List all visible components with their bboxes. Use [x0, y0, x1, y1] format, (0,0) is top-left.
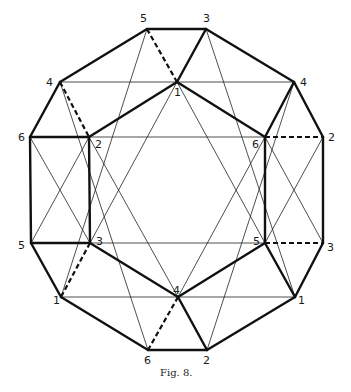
vertex-label-b6: 6 [144, 354, 151, 367]
thin-line-top5-l1 [61, 29, 147, 297]
thick-edge-b6-l1 [61, 297, 148, 350]
vertex-label-r4: 4 [300, 76, 307, 89]
vertex-label-r3: 3 [327, 241, 334, 254]
thick-edge-l1-l5 [31, 243, 61, 297]
dashed-edge-top5-c1 [147, 29, 177, 82]
vertex-label-l4: 4 [46, 76, 53, 89]
thick-edge-l6-l4 [30, 82, 60, 137]
vertex-label-l5: 5 [18, 239, 25, 252]
vertex-label-i6: 6 [252, 138, 259, 151]
dashed-edges [60, 29, 323, 350]
thick-edge-r3-r1 [295, 243, 323, 297]
thick-edge-r1-b2 [207, 297, 295, 350]
thin-line-top3-r1 [206, 29, 295, 297]
vertex-label-top5: 5 [140, 12, 147, 25]
dodecagon-diagram: 534416262535314162 Fig. 8. [0, 0, 351, 392]
thick-edge-c4-b2 [178, 297, 207, 350]
thick-edge-i2-i3 [89, 137, 90, 243]
thin-line-l4-b6 [60, 82, 148, 350]
thick-edge-l5-l6 [30, 137, 31, 243]
thick-edge-l4-top5 [60, 29, 147, 82]
figure-caption: Fig. 8. [160, 367, 192, 378]
vertex-label-r1: 1 [298, 294, 305, 307]
dashed-edge-l4-i2 [60, 82, 89, 137]
vertex-labels: 534416262535314162 [18, 12, 335, 367]
thick-edge-c1-i6 [177, 82, 265, 137]
thick-edge-i3-c4 [90, 243, 178, 297]
thick-edge-i6-r4 [265, 82, 294, 137]
vertex-label-i3: 3 [96, 235, 103, 248]
thick-edge-r4-r2 [294, 82, 323, 137]
vertex-label-top3: 3 [203, 12, 210, 25]
thick-edge-c1-i2 [89, 82, 177, 137]
vertex-label-l6: 6 [18, 131, 25, 144]
thin-line-r4-b2 [207, 82, 294, 350]
thick-edge-top3-c1 [177, 29, 206, 82]
vertex-label-c4: 4 [173, 284, 180, 297]
thin-line-l5-i2 [31, 137, 89, 243]
thin-line-c1-i5 [177, 82, 265, 243]
vertex-label-c1: 1 [174, 86, 181, 99]
vertex-label-i5: 5 [253, 235, 260, 248]
dashed-edge-c4-b6 [148, 297, 178, 350]
thick-edge-top3-r4 [206, 29, 294, 82]
thick-edge-i5-c4 [178, 243, 265, 297]
vertex-label-i2: 2 [95, 138, 102, 151]
thin-line-c4-i6 [178, 137, 265, 297]
vertex-label-b2: 2 [203, 354, 210, 367]
thin-line-c4-i2 [89, 137, 178, 297]
vertex-label-l1: 1 [53, 294, 60, 307]
vertex-label-r2: 2 [328, 131, 335, 144]
